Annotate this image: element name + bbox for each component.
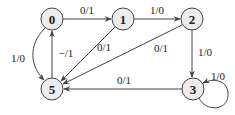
state-label-1: 1: [120, 12, 127, 27]
edge-0-5: 1/0: [11, 28, 45, 80]
edge-label-0-5: 1/0: [11, 52, 26, 64]
state-node-1: 1: [112, 8, 134, 30]
edge-2-3: 1/0: [192, 30, 213, 77]
state-diagram: 0/1 1/0 0/1 0/1 1/0 1/0 0/1 1/0 −/1 0: [0, 0, 235, 115]
edge-label-3-5: 0/1: [117, 74, 131, 86]
edge-label-2-5: 0/1: [154, 42, 168, 54]
edge-label-0-1: 0/1: [80, 4, 94, 16]
edge-3-5: 0/1: [64, 74, 182, 89]
edge-label-2-3: 1/0: [198, 46, 213, 58]
state-node-5: 5: [41, 78, 63, 100]
edge-label-3-3: 1/0: [211, 70, 226, 82]
state-label-5: 5: [49, 82, 56, 97]
state-label-0: 0: [49, 12, 56, 27]
state-label-3: 3: [190, 82, 197, 97]
edge-1-2: 1/0: [134, 4, 180, 19]
edge-label-1-2: 1/0: [150, 4, 165, 16]
edge-label-1-5: 0/1: [97, 41, 111, 53]
edge-5-0: −/1: [52, 31, 73, 78]
state-node-3: 3: [182, 78, 204, 100]
state-node-2: 2: [181, 8, 203, 30]
state-node-0: 0: [41, 8, 63, 30]
edge-label-5-0: −/1: [59, 47, 74, 59]
edge-0-1: 0/1: [63, 4, 111, 19]
state-label-2: 2: [189, 12, 196, 27]
